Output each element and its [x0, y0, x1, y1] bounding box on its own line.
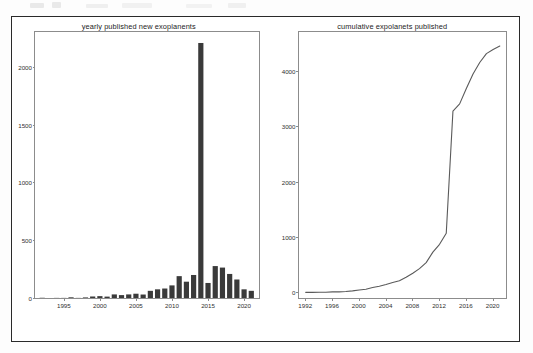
x-tick-mark [386, 298, 387, 301]
plot-area-cumulative [299, 32, 507, 298]
chart-title-cumulative: cumulative expolanets published [266, 22, 520, 31]
y-tick-label: 3000 [282, 123, 296, 130]
bar [241, 289, 246, 298]
bar [191, 275, 196, 298]
plot-area-yearly [35, 32, 259, 298]
y-tick-mark [296, 292, 299, 293]
bar [234, 279, 239, 298]
x-tick-label: 2012 [432, 302, 446, 309]
axes-yearly: 0500100015002000 19952000200520102015202… [34, 31, 260, 299]
panel-yearly-published: yearly published new exoplanents 0500100… [12, 17, 266, 341]
x-tick-mark [412, 298, 413, 301]
bar [220, 268, 225, 298]
x-tick-label: 2010 [165, 302, 179, 309]
figure-container: yearly published new exoplanents 0500100… [11, 16, 520, 342]
y-tick-mark [33, 125, 36, 126]
bar [119, 295, 124, 298]
bar [177, 276, 182, 298]
y-tick-mark [33, 298, 36, 299]
bar [198, 43, 203, 298]
y-tick-mark [33, 67, 36, 68]
bar-series-yearly [35, 32, 259, 298]
x-tick-label: 2015 [201, 302, 215, 309]
y-tick-label: 1000 [282, 234, 296, 241]
y-tick-mark [33, 240, 36, 241]
x-tick-label: 2016 [459, 302, 473, 309]
x-tick-label: 2008 [405, 302, 419, 309]
x-tick-mark [208, 298, 209, 301]
x-tick-mark [493, 298, 494, 301]
bar [162, 289, 167, 298]
bar [83, 297, 88, 298]
bar [112, 294, 117, 298]
x-tick-label: 2004 [379, 302, 393, 309]
x-tick-label: 2005 [129, 302, 143, 309]
x-tick-mark [439, 298, 440, 301]
axes-cumulative: 01000200030004000 1992199620002004200820… [298, 31, 508, 299]
y-tick-label: 1000 [18, 179, 32, 186]
x-tick-label: 1992 [298, 302, 312, 309]
x-tick-mark [359, 298, 360, 301]
x-tick-mark [64, 298, 65, 301]
y-tick-label: 2000 [18, 63, 32, 70]
x-tick-mark [244, 298, 245, 301]
x-tick-mark [305, 298, 306, 301]
bar [126, 294, 131, 298]
y-tick-label: 1500 [18, 121, 32, 128]
scan-artifacts [0, 0, 533, 14]
bar [169, 285, 174, 298]
bar [68, 297, 73, 298]
y-tick-mark [296, 71, 299, 72]
bar [227, 274, 232, 298]
bar [205, 283, 210, 298]
y-tick-mark [296, 126, 299, 127]
y-tick-label: 500 [22, 237, 32, 244]
y-tick-label: 2000 [282, 178, 296, 185]
x-tick-label: 1996 [325, 302, 339, 309]
chart-title-yearly: yearly published new exoplanents [12, 22, 266, 31]
bar [184, 282, 189, 298]
x-tick-label: 2020 [486, 302, 500, 309]
x-tick-mark [466, 298, 467, 301]
bar [249, 291, 254, 298]
line-series-cumulative [299, 32, 507, 298]
y-tick-label: 0 [29, 295, 32, 302]
bar [90, 296, 95, 298]
x-tick-label: 1995 [57, 302, 71, 309]
x-tick-mark [136, 298, 137, 301]
bar [155, 289, 160, 298]
y-tick-label: 0 [292, 289, 295, 296]
panel-cumulative-published: cumulative expolanets published 01000200… [266, 17, 520, 341]
x-tick-mark [100, 298, 101, 301]
x-tick-label: 2000 [93, 302, 107, 309]
bar [105, 297, 110, 298]
y-tick-mark [296, 182, 299, 183]
y-tick-mark [296, 237, 299, 238]
bar [148, 291, 153, 298]
y-tick-label: 4000 [282, 67, 296, 74]
y-tick-mark [33, 182, 36, 183]
x-tick-label: 2000 [352, 302, 366, 309]
bar [213, 266, 218, 298]
x-tick-mark [332, 298, 333, 301]
bar [141, 295, 146, 298]
x-tick-label: 2020 [237, 302, 251, 309]
x-tick-mark [172, 298, 173, 301]
